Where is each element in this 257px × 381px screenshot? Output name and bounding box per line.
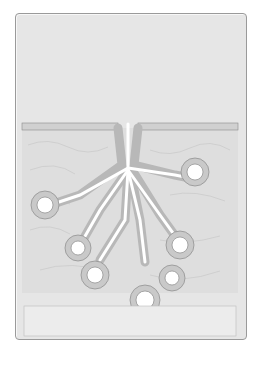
blood-vessel bbox=[24, 306, 236, 336]
exocrine-gland-illustration bbox=[0, 0, 257, 381]
epithelium-left bbox=[22, 123, 118, 130]
epithelium-right bbox=[138, 123, 238, 130]
